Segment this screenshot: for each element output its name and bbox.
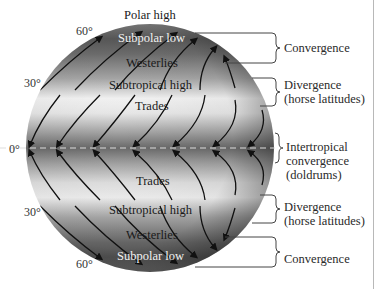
label-westerlies-south: Westerlies (126, 229, 178, 242)
label-trades-south: Trades (136, 175, 170, 188)
right-border-line (373, 0, 374, 289)
label-subpolar-low-south: Subpolar low (117, 250, 184, 263)
latitude-30s: 30° (24, 205, 41, 220)
wind-belts-diagram: Polar high Subpolar low Westerlies Subtr… (0, 0, 376, 289)
latitude-30n: 30° (24, 76, 41, 91)
annotation-convergence-south: Convergence (284, 252, 350, 266)
itcz-brace (275, 133, 283, 163)
latitude-equator: 0° (9, 142, 20, 157)
latitude-60n: 60° (76, 24, 93, 39)
annotation-divergence-south: Divergence (horse latitudes) (284, 200, 365, 228)
annotation-itcz: Intertropical convergence (doldrums) (286, 140, 349, 182)
label-subpolar-low-north: Subpolar low (118, 32, 185, 45)
latitude-60s: 60° (76, 257, 93, 272)
label-trades-north: Trades (135, 100, 169, 113)
label-westerlies-north: Westerlies (126, 57, 178, 70)
label-subtropical-high-north: Subtropical high (109, 79, 192, 92)
label-subtropical-high-south: Subtropical high (109, 204, 192, 217)
annotation-divergence-north: Divergence (horse latitudes) (284, 78, 365, 106)
annotation-convergence-north: Convergence (284, 41, 350, 55)
label-polar-high: Polar high (124, 9, 176, 22)
